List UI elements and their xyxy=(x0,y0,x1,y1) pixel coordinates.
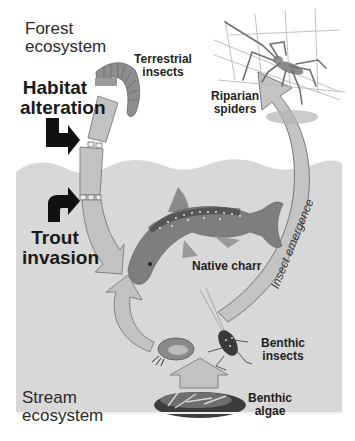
benthic-algae-label: Benthic algae xyxy=(246,392,294,417)
forest-ecosystem-label: Forest ecosystem xyxy=(25,20,106,56)
benthic-insects-label: Benthic insects xyxy=(259,337,307,362)
native-charr-label: Native charr xyxy=(192,260,261,273)
trout-invasion-label: Trout invasion xyxy=(22,228,88,268)
habitat-alteration-impact-arrow xyxy=(46,118,80,155)
habitat-label-line2: alteration xyxy=(20,98,90,118)
native-charr-label-text: Native charr xyxy=(192,260,261,273)
habitat-label-line1: Habitat xyxy=(20,78,90,98)
food-web-diagram: Forest ecosystem Stream ecosystem Habita… xyxy=(0,0,355,441)
terrestrial-insects-label: Terrestrial insects xyxy=(132,53,194,78)
stream-label-line2: ecosystem xyxy=(22,407,103,425)
stream-ecosystem-label: Stream ecosystem xyxy=(22,389,103,425)
stream-label-line1: Stream xyxy=(22,389,103,407)
benthic-insects-line1: Benthic xyxy=(259,337,307,350)
habitat-alteration-label: Habitat alteration xyxy=(20,78,90,118)
terrestrial-label-line1: Terrestrial xyxy=(132,53,194,66)
terrestrial-label-line2: insects xyxy=(132,66,194,79)
benthic-algae-line2: algae xyxy=(246,405,294,418)
trout-label-line2: invasion xyxy=(22,248,88,268)
spider-web xyxy=(214,8,345,100)
riparian-spiders-label: Riparian spiders xyxy=(210,90,260,115)
forest-label-line1: Forest xyxy=(25,20,106,38)
trout-label-line1: Trout xyxy=(22,228,88,248)
riparian-label-line2: spiders xyxy=(210,103,260,116)
benthic-algae-line1: Benthic xyxy=(246,392,294,405)
leaf-shadow xyxy=(266,110,318,124)
riparian-label-line1: Riparian xyxy=(210,90,260,103)
forest-label-line2: ecosystem xyxy=(25,38,106,56)
benthic-insects-line2: insects xyxy=(259,350,307,363)
